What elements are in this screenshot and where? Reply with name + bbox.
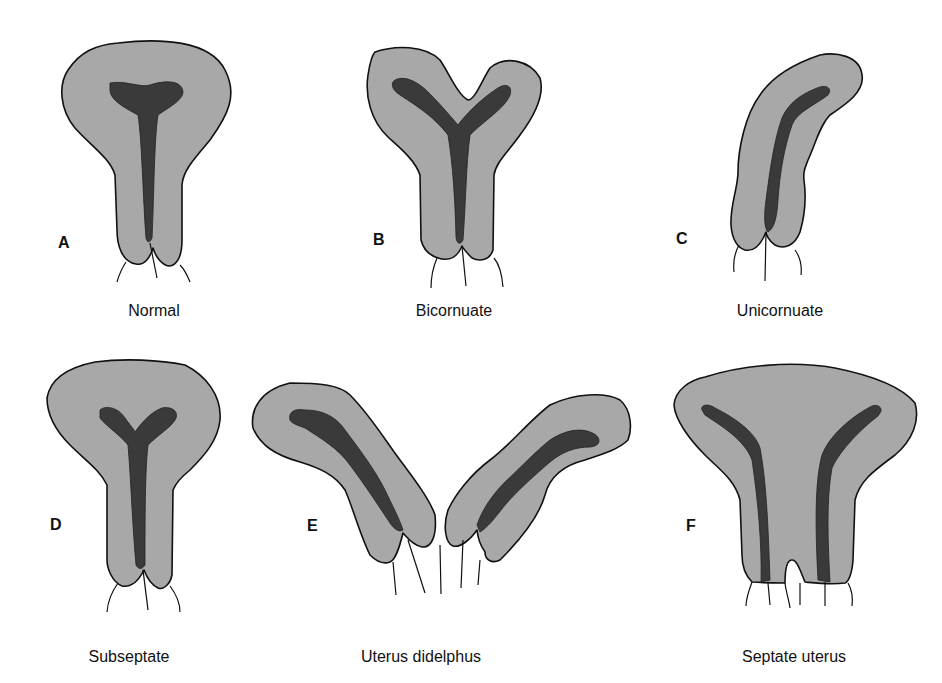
panel-letter-e: E bbox=[307, 517, 318, 535]
caption-septate-uterus: Septate uterus bbox=[694, 648, 894, 666]
caption-normal: Normal bbox=[54, 302, 254, 320]
panel-letter-b: B bbox=[373, 231, 385, 249]
caption-unicornuate: Unicornuate bbox=[680, 302, 880, 320]
panel-b-bicornuate-uterus bbox=[367, 47, 541, 288]
caption-subseptate: Subseptate bbox=[29, 648, 229, 666]
panel-f-septate-uterus bbox=[674, 364, 917, 608]
panel-d-subseptate-uterus bbox=[47, 360, 220, 612]
panel-c-unicornuate-uterus bbox=[731, 54, 862, 281]
uterine-anomalies-diagram bbox=[0, 0, 942, 683]
panel-letter-d: D bbox=[50, 516, 62, 534]
panel-letter-c: C bbox=[676, 230, 688, 248]
caption-bicornuate: Bicornuate bbox=[354, 302, 554, 320]
panel-letter-a: A bbox=[58, 234, 70, 252]
caption-uterus-didelphus: Uterus didelphus bbox=[321, 648, 521, 666]
panel-a-normal-uterus bbox=[62, 41, 231, 282]
panel-e-uterus-didelphus bbox=[252, 383, 630, 595]
panel-letter-f: F bbox=[686, 517, 696, 535]
